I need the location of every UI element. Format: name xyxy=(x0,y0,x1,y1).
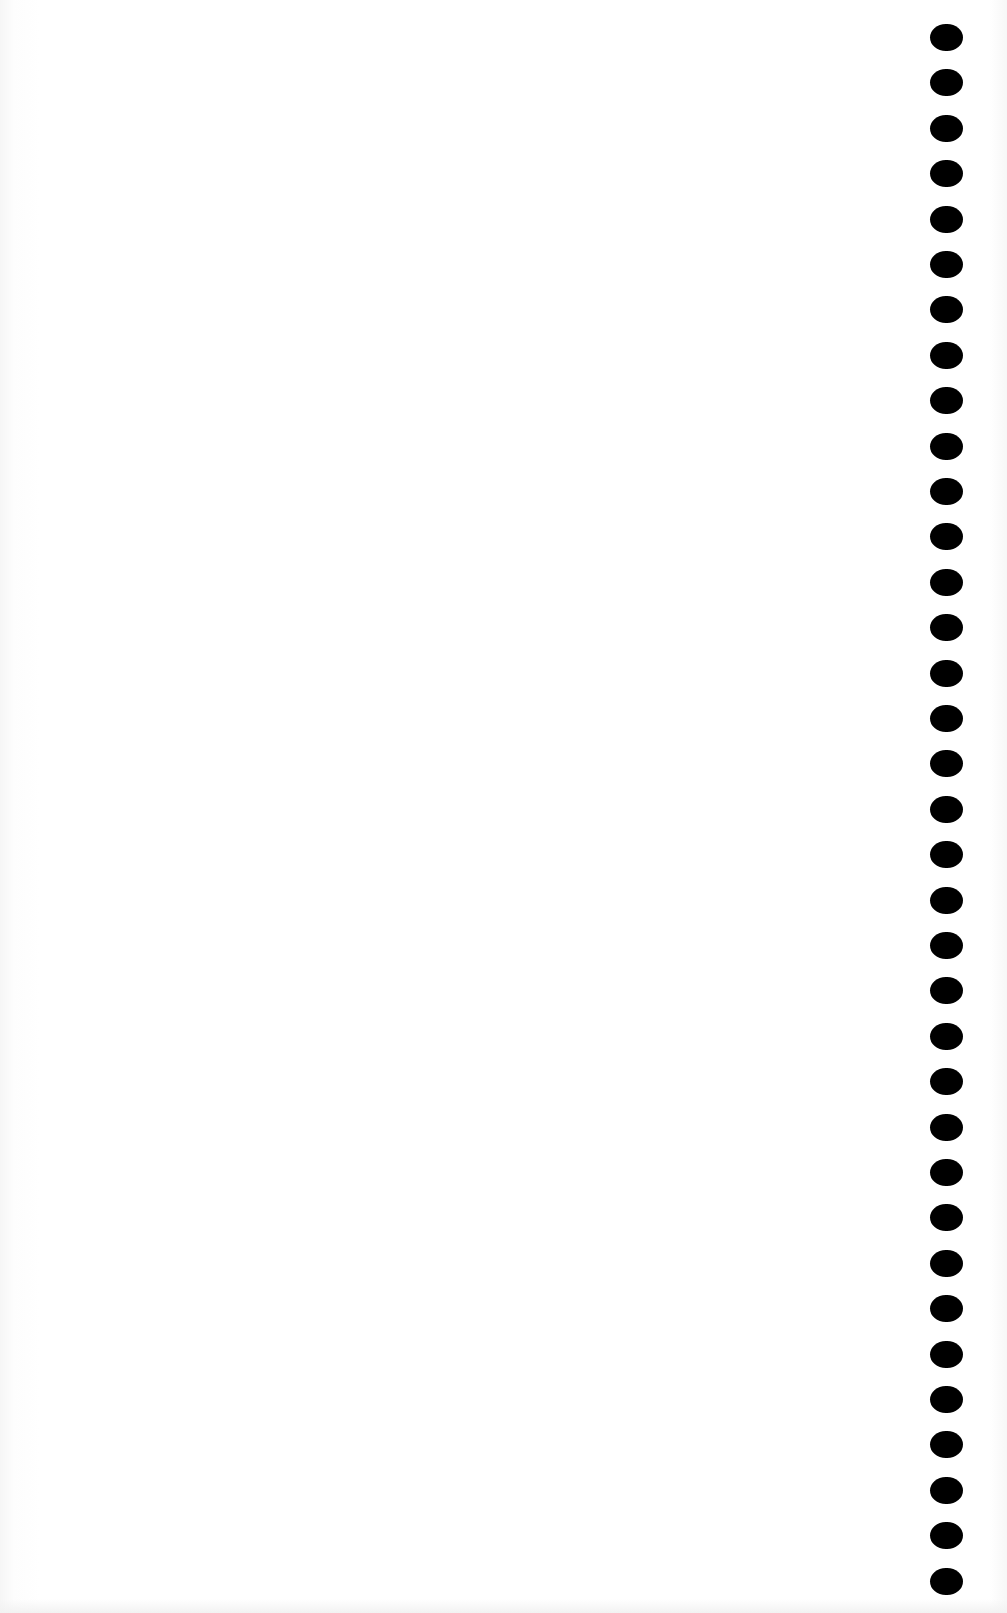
page-edge-shadow xyxy=(0,1599,1007,1613)
binder-hole-icon xyxy=(930,478,963,505)
binder-hole-icon xyxy=(930,1159,963,1186)
binder-hole-icon xyxy=(930,705,963,732)
binder-hole-icon xyxy=(930,1023,963,1050)
binder-hole-icon xyxy=(930,1114,963,1141)
binder-hole-icon xyxy=(930,251,963,278)
binder-hole-icon xyxy=(930,660,963,687)
binder-hole-icon xyxy=(930,206,963,233)
binder-hole-icon xyxy=(930,69,963,96)
binder-hole-icon xyxy=(930,1341,963,1368)
binder-hole-icon xyxy=(930,932,963,959)
binder-hole-icon xyxy=(930,160,963,187)
binder-hole-icon xyxy=(930,887,963,914)
binder-hole-icon xyxy=(930,977,963,1004)
binder-hole-icon xyxy=(930,1568,963,1595)
binder-hole-icon xyxy=(930,115,963,142)
binder-hole-icon xyxy=(930,569,963,596)
binder-hole-icon xyxy=(930,1250,963,1277)
binder-hole-icon xyxy=(930,24,963,51)
binder-hole-icon xyxy=(930,1068,963,1095)
binder-hole-icon xyxy=(930,796,963,823)
binder-hole-icon xyxy=(930,614,963,641)
binder-hole-icon xyxy=(930,1386,963,1413)
binder-hole-icon xyxy=(930,342,963,369)
binder-hole-icon xyxy=(930,750,963,777)
binder-hole-icon xyxy=(930,296,963,323)
binder-hole-icon xyxy=(930,1522,963,1549)
binder-hole-icon xyxy=(930,1431,963,1458)
binder-hole-icon xyxy=(930,1204,963,1231)
binder-hole-icon xyxy=(930,1477,963,1504)
binder-hole-column xyxy=(930,0,966,1613)
binder-hole-icon xyxy=(930,841,963,868)
blank-page xyxy=(0,0,1007,1613)
binder-hole-icon xyxy=(930,523,963,550)
binder-hole-icon xyxy=(930,387,963,414)
binder-hole-icon xyxy=(930,1295,963,1322)
binder-hole-icon xyxy=(930,433,963,460)
